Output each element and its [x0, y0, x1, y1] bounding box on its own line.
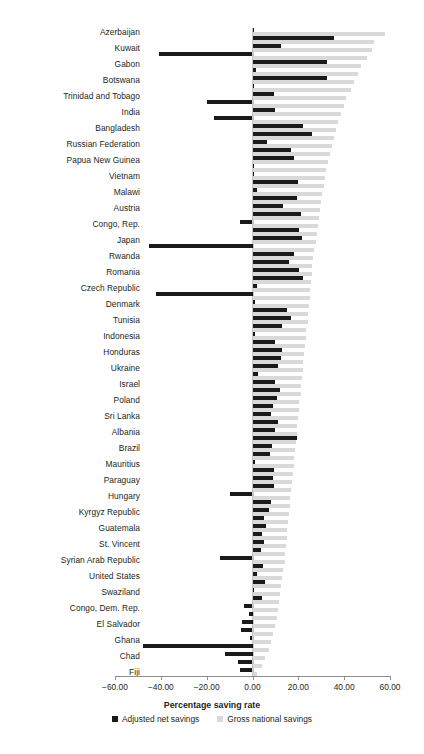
bar-gross-national-savings — [115, 472, 390, 476]
plot-area — [115, 28, 390, 676]
x-axis-tick-label: −40.00 — [148, 682, 174, 692]
bar-adjusted-net-savings — [115, 148, 390, 152]
bar-gross-national-savings — [115, 240, 390, 244]
bar-gross-national-savings — [115, 584, 390, 588]
bar-adjusted-net-savings — [115, 540, 390, 544]
bar-adjusted-net-savings — [115, 468, 390, 472]
bar-adjusted-net-savings — [115, 612, 390, 616]
bar-gross-national-savings — [115, 376, 390, 380]
bar-gross-national-savings — [115, 312, 390, 316]
bar-gross-national-savings — [115, 336, 390, 340]
bar-adjusted-net-savings — [115, 348, 390, 352]
bar-gross-national-savings — [115, 112, 390, 116]
bar-adjusted-net-savings — [115, 532, 390, 536]
bar-adjusted-net-savings — [115, 364, 390, 368]
bar-gross-national-savings — [115, 368, 390, 372]
bar-gross-national-savings — [115, 464, 390, 468]
legend-item-adjusted-net-savings: Adjusted net savings — [112, 714, 199, 724]
bar-gross-national-savings — [115, 408, 390, 412]
x-axis-tick-label: −20.00 — [194, 682, 220, 692]
bar-adjusted-net-savings — [115, 124, 390, 128]
bar-gross-national-savings — [115, 168, 390, 172]
bar-adjusted-net-savings — [115, 596, 390, 600]
bar-adjusted-net-savings — [115, 268, 390, 272]
bar-gross-national-savings — [115, 512, 390, 516]
bar-adjusted-net-savings — [115, 212, 390, 216]
x-axis-tick-label: −60.00 — [102, 682, 128, 692]
bar-gross-national-savings — [115, 528, 390, 532]
bar-gross-national-savings — [115, 616, 390, 620]
bar-gross-national-savings — [115, 176, 390, 180]
bar-adjusted-net-savings — [115, 68, 390, 72]
bar-gross-national-savings — [115, 216, 390, 220]
bar-gross-national-savings — [115, 200, 390, 204]
x-axis-tick-label: 20.00 — [288, 682, 309, 692]
bar-adjusted-net-savings — [115, 524, 390, 528]
x-axis-tick — [115, 676, 116, 680]
bar-gross-national-savings — [115, 192, 390, 196]
bar-adjusted-net-savings — [115, 444, 390, 448]
bar-adjusted-net-savings — [115, 356, 390, 360]
bar-adjusted-net-savings — [115, 332, 390, 336]
bar-adjusted-net-savings — [115, 220, 390, 224]
bar-adjusted-net-savings — [115, 76, 390, 80]
bar-adjusted-net-savings — [115, 164, 390, 168]
bar-gross-national-savings — [115, 48, 390, 52]
x-axis-tick — [390, 676, 391, 680]
bar-adjusted-net-savings — [115, 620, 390, 624]
bar-gross-national-savings — [115, 104, 390, 108]
bar-adjusted-net-savings — [115, 644, 390, 648]
bar-adjusted-net-savings — [115, 388, 390, 392]
bar-gross-national-savings — [115, 224, 390, 228]
bar-adjusted-net-savings — [115, 308, 390, 312]
bar-adjusted-net-savings — [115, 476, 390, 480]
bar-gross-national-savings — [115, 256, 390, 260]
bar-adjusted-net-savings — [115, 628, 390, 632]
bar-adjusted-net-savings — [115, 100, 390, 104]
bar-gross-national-savings — [115, 632, 390, 636]
bar-adjusted-net-savings — [115, 228, 390, 232]
bar-adjusted-net-savings — [115, 116, 390, 120]
bar-adjusted-net-savings — [115, 324, 390, 328]
bar-adjusted-net-savings — [115, 564, 390, 568]
bar-gross-national-savings — [115, 344, 390, 348]
bar-gross-national-savings — [115, 32, 390, 36]
bar-adjusted-net-savings — [115, 420, 390, 424]
bar-adjusted-net-savings — [115, 300, 390, 304]
x-axis-title: Percentage saving rate — [0, 700, 424, 710]
bar-adjusted-net-savings — [115, 92, 390, 96]
bar-gross-national-savings — [115, 144, 390, 148]
bar-gross-national-savings — [115, 56, 390, 60]
bar-adjusted-net-savings — [115, 652, 390, 656]
bar-adjusted-net-savings — [115, 172, 390, 176]
bar-gross-national-savings — [115, 128, 390, 132]
bar-gross-national-savings — [115, 120, 390, 124]
bar-gross-national-savings — [115, 664, 390, 668]
bar-gross-national-savings — [115, 96, 390, 100]
bar-gross-national-savings — [115, 424, 390, 428]
bar-gross-national-savings — [115, 392, 390, 396]
bar-gross-national-savings — [115, 72, 390, 76]
legend-item-gross-national-savings: Gross national savings — [217, 714, 312, 724]
bar-gross-national-savings — [115, 88, 390, 92]
bar-gross-national-savings — [115, 280, 390, 284]
bar-gross-national-savings — [115, 264, 390, 268]
bar-adjusted-net-savings — [115, 500, 390, 504]
bar-gross-national-savings — [115, 232, 390, 236]
bar-gross-national-savings — [115, 296, 390, 300]
bar-gross-national-savings — [115, 40, 390, 44]
legend-label-adjusted-net-savings: Adjusted net savings — [122, 714, 199, 724]
bar-adjusted-net-savings — [115, 244, 390, 248]
bar-adjusted-net-savings — [115, 452, 390, 456]
bar-adjusted-net-savings — [115, 252, 390, 256]
bar-adjusted-net-savings — [115, 372, 390, 376]
x-axis: −60.00−40.00−20.000.0020.0040.0060.00 — [115, 676, 390, 677]
bar-adjusted-net-savings — [115, 396, 390, 400]
bar-adjusted-net-savings — [115, 276, 390, 280]
bar-gross-national-savings — [115, 576, 390, 580]
bar-adjusted-net-savings — [115, 572, 390, 576]
bar-adjusted-net-savings — [115, 36, 390, 40]
bar-gross-national-savings — [115, 448, 390, 452]
bar-gross-national-savings — [115, 400, 390, 404]
bar-adjusted-net-savings — [115, 340, 390, 344]
